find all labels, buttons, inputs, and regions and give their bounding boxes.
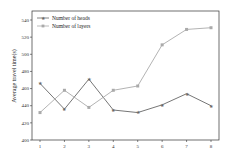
data-point <box>136 85 139 88</box>
y-tick-label: 500 <box>22 52 30 57</box>
y-tick-label: 440 <box>22 103 30 108</box>
data-point: ★ <box>185 92 190 97</box>
legend-layers: Number of layers <box>52 23 91 29</box>
data-point <box>63 89 66 92</box>
y-tick-label: 520 <box>22 35 30 40</box>
y-tick-label: 460 <box>22 86 30 91</box>
x-tick-label: 8 <box>210 144 213 149</box>
data-point: ★ <box>87 77 92 82</box>
series-line <box>40 28 211 113</box>
data-point <box>112 89 115 92</box>
x-tick-label: 2 <box>63 144 66 149</box>
legend-square-icon <box>42 25 45 28</box>
legend-heads: Number of heads <box>52 15 90 21</box>
data-point <box>39 111 42 114</box>
data-point <box>161 43 164 46</box>
data-point <box>87 106 90 109</box>
x-tick-label: 3 <box>88 144 91 149</box>
y-axis-label: Average travel time(s) <box>11 49 18 103</box>
y-tick-label: 480 <box>22 69 30 74</box>
x-tick-label: 6 <box>161 144 164 149</box>
data-point: ★ <box>62 107 67 112</box>
x-axis: 12345678 <box>39 140 213 149</box>
y-tick-label: 420 <box>22 121 30 126</box>
y-tick-label: 540 <box>22 18 30 23</box>
data-point: ★ <box>136 110 141 115</box>
line-chart: 400420440460480500520540 12345678 Averag… <box>0 0 231 154</box>
data-point <box>210 26 213 29</box>
x-tick-label: 7 <box>185 144 188 149</box>
y-tick-label: 400 <box>22 138 30 143</box>
x-tick-label: 1 <box>39 144 42 149</box>
x-tick-label: 5 <box>136 144 139 149</box>
plot-frame <box>32 11 219 140</box>
data-point: ★ <box>209 104 214 109</box>
legend: ★ Number of heads Number of layers <box>37 15 91 29</box>
x-tick-label: 4 <box>112 144 115 149</box>
y-axis: 400420440460480500520540 <box>22 18 33 143</box>
data-point <box>185 28 188 31</box>
series-lines: ★★★★★★★★ <box>38 26 214 115</box>
